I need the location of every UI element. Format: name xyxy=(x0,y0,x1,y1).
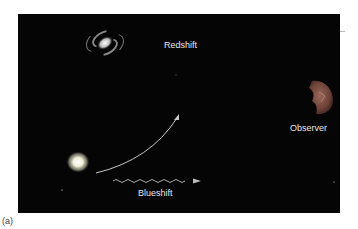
spiral-galaxy-icon xyxy=(83,21,128,64)
redshift-arrow-icon xyxy=(96,114,179,173)
blueshift-label: Blueshift xyxy=(138,188,173,198)
light-source-icon xyxy=(66,151,90,173)
observer-eye-icon xyxy=(309,81,333,114)
figure-caption: (a) xyxy=(2,216,13,226)
blueshift-wave-arrow-icon xyxy=(113,179,201,184)
redshift-label: Redshift xyxy=(164,40,197,50)
doppler-diagram xyxy=(0,0,358,229)
observer-label: Observer xyxy=(290,123,327,133)
